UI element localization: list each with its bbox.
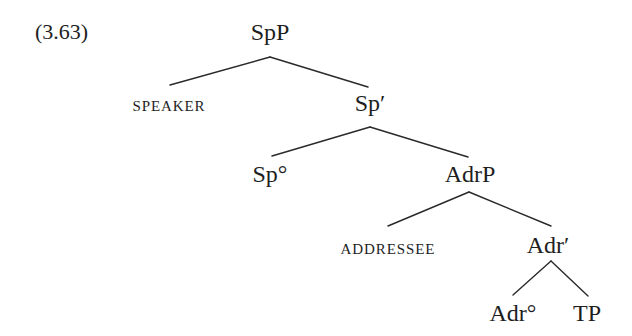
node-tp: TP <box>573 301 601 325</box>
node-adr-bar: Adr′ <box>527 233 570 257</box>
node-addressee: addressee <box>341 242 436 257</box>
node-spp: SpP <box>251 20 290 44</box>
syntax-tree-figure: (3.63) SpP speaker Sp′ Sp° AdrP addresse… <box>0 0 632 336</box>
node-adrp: AdrP <box>445 162 496 186</box>
edge-spbar-adrp <box>370 127 468 157</box>
edge-spp-speaker <box>170 57 270 85</box>
node-speaker: speaker <box>133 99 206 114</box>
node-adr-head: Adr° <box>490 301 537 325</box>
edge-adrp-addressee <box>388 192 469 226</box>
node-sp-head: Sp° <box>253 162 288 186</box>
node-sp-bar: Sp′ <box>355 91 386 115</box>
edge-adrp-adrbar <box>469 192 551 226</box>
edge-adrbar-tp <box>551 261 588 296</box>
edge-adrbar-adrhead <box>513 261 551 295</box>
edge-spp-spbar <box>270 57 368 87</box>
tree-edges <box>0 0 632 336</box>
edge-spbar-sphead <box>272 127 370 156</box>
